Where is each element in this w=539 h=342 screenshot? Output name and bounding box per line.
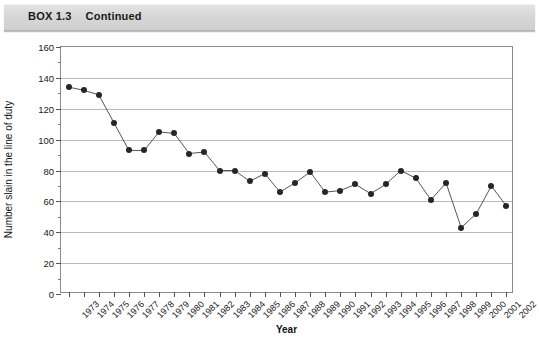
box-continued-label: Continued: [86, 10, 142, 22]
y-tick: [56, 294, 61, 295]
y-tick-label: 100: [38, 134, 54, 145]
data-point: [186, 151, 192, 157]
data-point: [473, 211, 479, 217]
plot-area: 020406080100120140160 197319741975197619…: [60, 46, 513, 293]
y-tick-label: 20: [43, 258, 54, 269]
data-point: [368, 191, 374, 197]
box-header-text: BOX 1.3Continued: [28, 10, 142, 22]
y-tick-label: 160: [38, 42, 54, 53]
y-tick-label: 40: [43, 227, 54, 238]
data-point: [352, 181, 358, 187]
data-point: [337, 188, 343, 194]
data-point: [247, 178, 253, 184]
data-point: [277, 189, 283, 195]
box-number-label: BOX 1.3: [28, 10, 72, 22]
y-axis-title-text: Number slain in the line of duty: [4, 101, 15, 238]
data-point: [428, 197, 434, 203]
data-point: [383, 181, 389, 187]
x-axis-title: Year: [60, 324, 513, 335]
data-point: [96, 92, 102, 98]
y-tick-label: 0: [49, 289, 54, 300]
series-line: [61, 47, 514, 294]
y-tick-label: 120: [38, 103, 54, 114]
y-tick-label: 80: [43, 165, 54, 176]
data-point: [398, 168, 404, 174]
box-header-bar: BOX 1.3Continued: [4, 4, 535, 31]
data-point: [156, 129, 162, 135]
data-point: [171, 130, 177, 136]
data-point: [126, 147, 132, 153]
data-point: [488, 183, 494, 189]
data-point: [413, 175, 419, 181]
data-point: [458, 225, 464, 231]
x-tick-label: 2002: [517, 299, 538, 320]
y-tick-label: 140: [38, 72, 54, 83]
y-axis-title: Number slain in the line of duty: [2, 46, 16, 293]
data-point: [503, 203, 509, 209]
y-tick-label: 60: [43, 196, 54, 207]
data-point: [81, 87, 87, 93]
data-point: [141, 147, 147, 153]
data-point: [262, 171, 268, 177]
data-point: [217, 168, 223, 174]
data-point: [443, 180, 449, 186]
data-point: [201, 149, 207, 155]
data-point: [322, 189, 328, 195]
data-point: [111, 120, 117, 126]
data-point: [292, 180, 298, 186]
data-point: [307, 169, 313, 175]
chart-figure: Number slain in the line of duty 0204060…: [0, 33, 539, 342]
data-point: [232, 168, 238, 174]
data-point: [66, 84, 72, 90]
